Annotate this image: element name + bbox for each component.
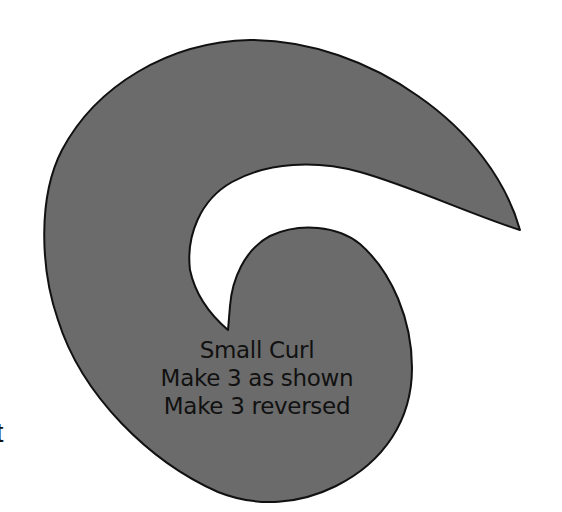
curl-label: Small Curl Make 3 as shown Make 3 revers…	[130, 336, 384, 420]
small-curl-shape	[44, 40, 520, 502]
instruction-line-2: Make 3 reversed	[130, 392, 384, 420]
edge-text-fragment: t	[0, 418, 4, 449]
curl-name: Small Curl	[130, 336, 384, 364]
instruction-line-1: Make 3 as shown	[130, 364, 384, 392]
curl-pattern-diagram	[0, 0, 562, 512]
